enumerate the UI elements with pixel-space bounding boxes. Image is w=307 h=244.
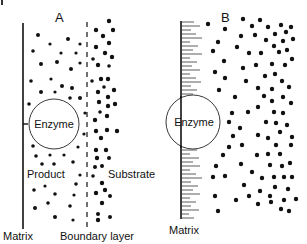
panel-a-substrate-dots bbox=[90, 19, 119, 222]
panel-b-substrate-dots bbox=[206, 17, 298, 213]
panel-b-title: B bbox=[221, 10, 230, 25]
enzyme-diffusion-diagram: A Enzyme bbox=[0, 0, 307, 244]
panel-a-enzyme-label: Enzyme bbox=[34, 118, 74, 130]
panel-b: B bbox=[166, 10, 298, 236]
panel-a-matrix-label: Matrix bbox=[3, 230, 33, 242]
panel-a-product-label: Product bbox=[27, 168, 65, 180]
panel-a: A Enzyme bbox=[3, 10, 155, 242]
panel-a-boundary-label: Boundary layer bbox=[60, 230, 134, 242]
panel-b-enzyme-label: Enzyme bbox=[174, 116, 214, 128]
panel-a-substrate-label: Substrate bbox=[108, 168, 155, 180]
panel-a-title: A bbox=[55, 10, 64, 25]
corner-mark bbox=[1, 0, 3, 5]
panel-b-matrix-label: Matrix bbox=[169, 224, 199, 236]
